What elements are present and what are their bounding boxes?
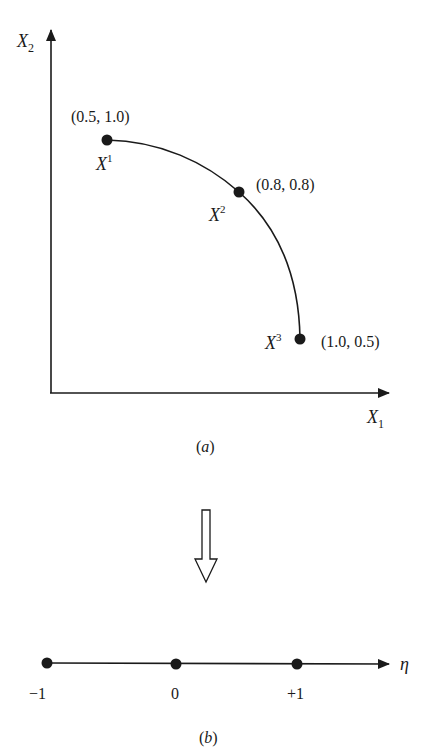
node-eta-minus-1: [42, 658, 53, 669]
eta-axis-label: η: [400, 654, 409, 674]
isoparametric-mapping-diagram: X2 X1 (0.5, 1.0) (0.8, 0.8) (1.0, 0.5) X…: [0, 0, 438, 747]
tick-label-0: 0: [171, 685, 179, 702]
figure-a: X2 X1 (0.5, 1.0) (0.8, 0.8) (1.0, 0.5) X…: [16, 30, 389, 456]
x2-axis-label: X2: [16, 31, 34, 55]
node-x2-label: X2: [208, 203, 226, 225]
node-x1-label: X1: [95, 152, 113, 174]
node-eta-plus-1: [292, 659, 303, 670]
figure-b: η −1 0 +1 (b): [29, 654, 409, 747]
node-eta-0: [171, 659, 182, 670]
hollow-down-arrow-icon: [195, 510, 217, 582]
tick-label-minus-1: −1: [29, 685, 46, 702]
curved-element-edge: [107, 140, 300, 339]
tick-label-plus-1: +1: [287, 685, 304, 702]
node-x1-coords: (0.5, 1.0): [71, 108, 130, 126]
node-x3-coords: (1.0, 0.5): [321, 333, 380, 351]
node-x2-coords: (0.8, 0.8): [256, 176, 315, 194]
eta-axis: [47, 663, 389, 664]
node-x1: [102, 135, 113, 146]
node-x3: [295, 334, 306, 345]
node-x3-label: X3: [264, 331, 282, 353]
x1-axis-label: X1: [366, 407, 384, 431]
caption-a: (a): [196, 438, 215, 456]
node-x2: [234, 187, 245, 198]
caption-b: (b): [199, 729, 218, 747]
